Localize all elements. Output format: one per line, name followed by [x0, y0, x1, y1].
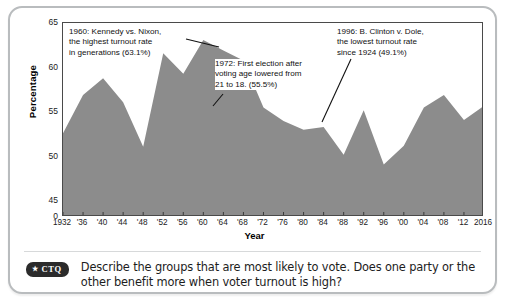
x-tick-label: '08: [438, 218, 449, 227]
annot-1996: 1996: B. Clinton v. Dole, the lowest tur…: [337, 27, 424, 58]
x-tick-label: '04: [418, 218, 429, 227]
x-tick-label: '60: [197, 218, 208, 227]
x-tick-label: '96: [377, 218, 388, 227]
x-tick-label: '68: [237, 218, 248, 227]
x-tick-label: '52: [157, 218, 168, 227]
y-tick-label: 65: [36, 18, 58, 26]
x-tick-label: '76: [277, 218, 288, 227]
ctq-question-text: Describe the groups that are most likely…: [81, 260, 486, 289]
ctq-badge-label: CTQ: [42, 264, 62, 274]
x-tick-label: '56: [177, 218, 188, 227]
section-divider: [24, 251, 481, 252]
x-tick-label: '72: [257, 218, 268, 227]
y-tick-label: 55: [36, 107, 58, 115]
critical-thinking-question: ★ CTQ Describe the groups that are most …: [26, 260, 486, 289]
x-tick-label: 2016: [474, 218, 492, 227]
x-tick-label: '36: [77, 218, 88, 227]
x-tick-label: '92: [357, 218, 368, 227]
annot-1972: 1972: First election after voting age lo…: [215, 59, 302, 90]
y-tick-label: 45: [36, 196, 58, 204]
star-icon: ★: [32, 266, 39, 273]
x-tick-label: '48: [137, 218, 148, 227]
x-tick-label: '12: [458, 218, 469, 227]
annot-1960: 1960: Kennedy vs. Nixon, the highest tur…: [69, 27, 161, 58]
x-tick-label: 1932: [53, 218, 71, 227]
x-tick-label: '40: [97, 218, 108, 227]
x-tick-label: '64: [217, 218, 228, 227]
voter-turnout-chart: Percentage 04550556065 1960: Kennedy vs.…: [10, 8, 499, 240]
x-tick-label: '44: [117, 218, 128, 227]
x-tick-label: '88: [337, 218, 348, 227]
x-tick-label: '84: [317, 218, 328, 227]
x-tick-label: '00: [397, 218, 408, 227]
y-tick-label: 60: [36, 63, 58, 71]
y-tick-label: 50: [36, 152, 58, 160]
y-axis-tick-labels: 04550556065: [28, 8, 58, 240]
plot-frame: 1960: Kennedy vs. Nixon, the highest tur…: [62, 22, 483, 216]
ctq-badge: ★ CTQ: [26, 262, 69, 277]
x-axis-title: Year: [10, 230, 499, 241]
figure-card: Percentage 04550556065 1960: Kennedy vs.…: [8, 6, 497, 294]
x-tick-label: '80: [297, 218, 308, 227]
